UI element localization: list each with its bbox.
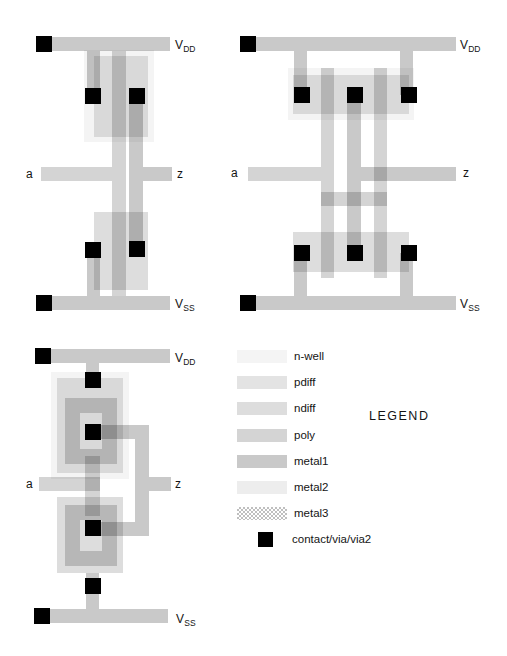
vdd-rail-contact — [36, 36, 52, 52]
input-a-poly-bar — [39, 477, 100, 491]
poly-gate-column-left — [321, 68, 334, 278]
drain-wire-vertical — [135, 425, 149, 536]
legend-swatch-pdiff — [237, 376, 287, 389]
figure-canvas: LEGEND n-wellpdiffndiffpolymetal1metal2m… — [0, 0, 507, 656]
label-vss: VSS — [176, 613, 196, 630]
output-z-metal-bar — [149, 477, 171, 491]
vdd-rail-contact — [35, 348, 51, 364]
label-vdd: VDD — [175, 352, 196, 369]
poly-gate-column — [112, 51, 126, 296]
legend-label-poly: poly — [294, 429, 315, 442]
label-a: a — [26, 168, 33, 181]
legend-swatch-metal1 — [237, 455, 287, 468]
output-z-metal-bar — [361, 167, 456, 181]
vdd-rail — [36, 37, 170, 51]
legend-label-metal2: metal2 — [294, 481, 329, 494]
pmos-drain-contact — [347, 87, 363, 103]
pmos-drain-contact — [85, 424, 101, 440]
label-vdd: VDD — [175, 39, 196, 56]
legend-swatch-metal3 — [237, 507, 287, 520]
pmos-source-contact — [85, 372, 101, 388]
legend-swatch-ndiff — [237, 402, 287, 415]
legend-label-metal1: metal1 — [294, 455, 329, 468]
label-a: a — [231, 167, 238, 180]
inverter-annular-layout: VDDazVSS — [0, 0, 507, 656]
output-z-metal-bar — [143, 167, 172, 181]
legend-title: LEGEND — [369, 409, 429, 423]
vss-rail — [241, 296, 456, 310]
vss-rail — [36, 296, 170, 310]
input-a-poly-bar — [248, 167, 321, 181]
legend-label-ndiff: ndiff — [294, 402, 316, 415]
nmos-drain-contact — [129, 241, 145, 257]
vss-rail-contact — [240, 295, 256, 311]
legend-label-nwell: n-well — [294, 350, 324, 363]
nmos-source-contact-right — [401, 245, 417, 261]
nmos-source-contact — [85, 578, 101, 594]
vdd-rail — [35, 349, 170, 363]
drain-metal-column — [347, 95, 361, 254]
nmos-source-contact-left — [294, 245, 310, 261]
label-z: z — [177, 168, 183, 181]
legend-swatch-contact — [258, 532, 273, 547]
label-vss: VSS — [175, 298, 195, 315]
pmos-drain-contact — [129, 88, 145, 104]
vdd-rail-contact — [240, 36, 256, 52]
vss-rail-contact — [36, 295, 52, 311]
pmos-source-contact — [85, 88, 101, 104]
legend-label-contact: contact/via/via2 — [292, 533, 371, 546]
label-a: a — [26, 478, 33, 491]
label-vdd: VDD — [460, 39, 481, 56]
pmos-source-contact-right — [401, 87, 417, 103]
drain-metal-column — [129, 95, 143, 249]
vss-rail-contact — [34, 608, 50, 624]
label-z: z — [175, 478, 181, 491]
legend-swatch-nwell — [237, 350, 287, 363]
legend-swatch-metal2 — [237, 481, 287, 494]
nmos-drain-contact — [85, 520, 101, 536]
vdd-rail — [241, 37, 456, 51]
pmos-source-contact-left — [294, 87, 310, 103]
label-z: z — [463, 167, 469, 180]
legend-label-pdiff: pdiff — [294, 376, 316, 389]
legend-swatch-poly — [237, 429, 287, 442]
vss-rail — [35, 609, 168, 623]
nmos-source-contact — [85, 242, 101, 258]
nmos-drain-contact — [347, 245, 363, 261]
legend-label-metal3: metal3 — [294, 507, 329, 520]
input-a-poly-bar — [41, 167, 112, 181]
label-vss: VSS — [460, 298, 480, 315]
